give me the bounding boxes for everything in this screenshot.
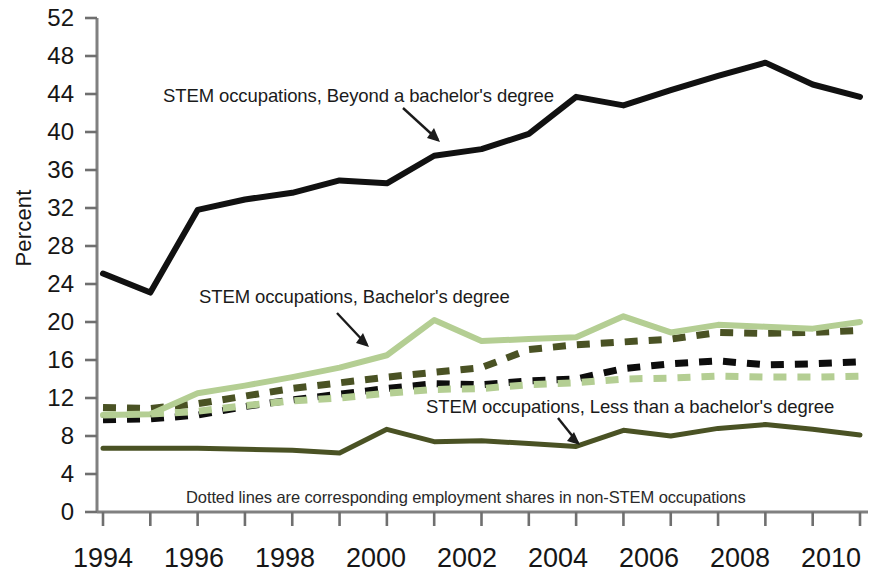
chart-figure: Percent 52 48 44 40 36 32 28 24 20 16 12…: [0, 0, 873, 583]
series-layer: [103, 63, 860, 453]
plot-area: [0, 0, 873, 583]
arrow-bachelor: [337, 313, 369, 347]
axis-lines: [97, 18, 868, 512]
series-line-5: [103, 425, 860, 454]
x-axis-ticks: [103, 512, 860, 526]
series-line-4: [103, 376, 860, 415]
arrow-beyond-bachelor: [403, 108, 440, 142]
y-axis-ticks: [85, 18, 97, 512]
series-line-0: [103, 63, 860, 293]
arrow-less-than-bachelor: [558, 418, 580, 445]
